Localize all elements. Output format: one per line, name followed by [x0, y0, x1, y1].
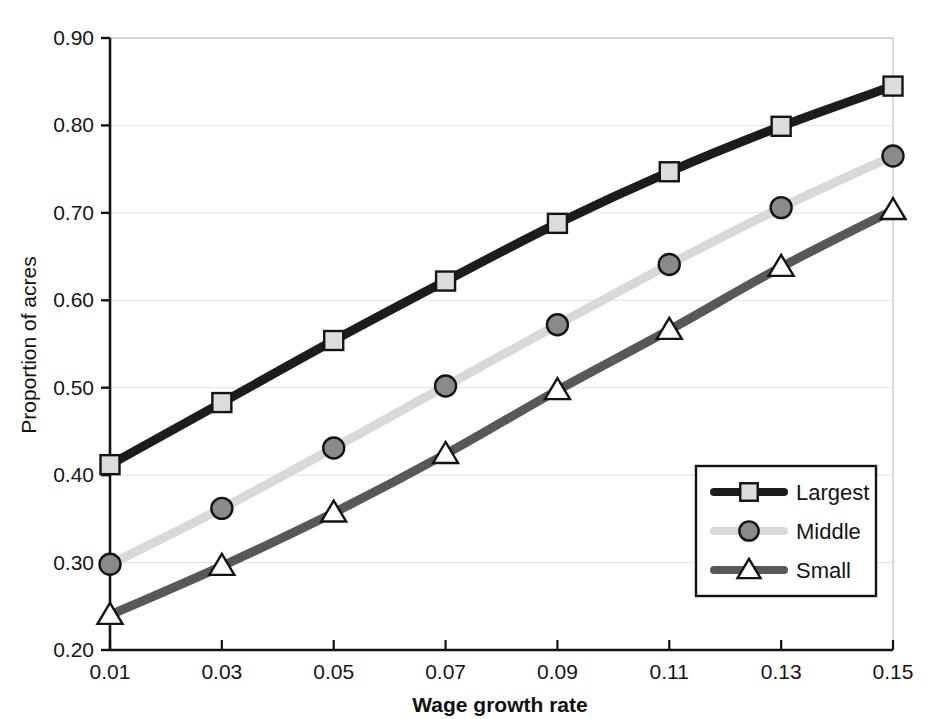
y-tick-label: 0.40 — [53, 463, 94, 486]
marker-square — [884, 77, 903, 96]
marker-square — [324, 331, 343, 350]
x-tick-label: 0.11 — [650, 660, 689, 683]
marker-square — [436, 272, 455, 291]
y-axis-title: Proportion of acres — [17, 256, 40, 433]
chart-legend: LargestMiddleSmall — [696, 466, 876, 596]
marker-circle — [323, 438, 344, 459]
marker-circle — [771, 197, 792, 218]
x-tick-label: 0.15 — [873, 660, 914, 683]
line-chart: 0.200.300.400.500.600.700.800.90 0.010.0… — [0, 0, 941, 719]
y-tick-label: 0.20 — [53, 638, 94, 661]
marker-circle — [739, 521, 758, 540]
marker-square — [740, 483, 757, 500]
chart-figure: 0.200.300.400.500.600.700.800.90 0.010.0… — [0, 0, 941, 719]
legend-label: Small — [796, 558, 851, 583]
x-tick-label: 0.13 — [761, 660, 802, 683]
legend-label: Middle — [796, 519, 861, 544]
marker-circle — [659, 254, 680, 275]
legend-label: Largest — [796, 480, 869, 505]
y-tick-label: 0.80 — [53, 113, 94, 136]
marker-square — [212, 393, 231, 412]
marker-circle — [435, 375, 456, 396]
x-axis-title: Wage growth rate — [412, 693, 587, 716]
x-tick-label: 0.09 — [537, 660, 578, 683]
y-tick-label: 0.30 — [53, 551, 94, 574]
marker-circle — [100, 554, 121, 575]
y-tick-label: 0.60 — [53, 288, 94, 311]
marker-square — [772, 117, 791, 136]
marker-circle — [883, 146, 904, 167]
x-tick-label: 0.07 — [425, 660, 466, 683]
y-tick-label: 0.90 — [53, 26, 94, 49]
marker-circle — [211, 498, 232, 519]
marker-square — [101, 455, 120, 474]
plot-background — [0, 0, 941, 719]
marker-circle — [547, 314, 568, 335]
y-tick-label: 0.50 — [53, 376, 94, 399]
y-tick-label: 0.70 — [53, 201, 94, 224]
x-tick-label: 0.05 — [313, 660, 354, 683]
marker-square — [660, 162, 679, 181]
x-tick-label: 0.03 — [201, 660, 242, 683]
x-tick-label: 0.01 — [90, 660, 131, 683]
marker-square — [548, 214, 567, 233]
